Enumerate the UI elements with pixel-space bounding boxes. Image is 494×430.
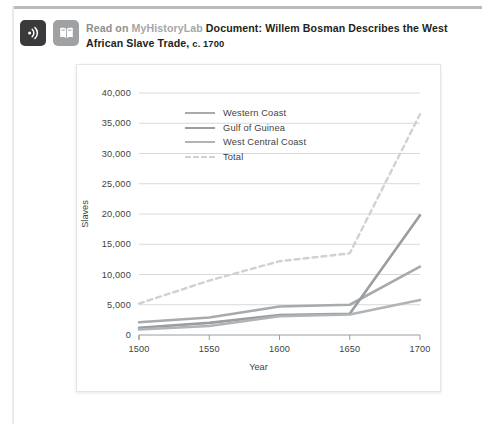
headline-on-label: on <box>115 22 128 34</box>
chart-card: 05,00010,00015,00020,00025,00030,00035,0… <box>76 64 441 392</box>
y-tick-label: 40,000 <box>83 88 131 98</box>
legend-label: Gulf of Guinea <box>223 123 285 133</box>
screenshot-root: Read on MyHistoryLab Document: Willem Bo… <box>0 0 494 430</box>
legend-label: West Central Coast <box>223 137 306 147</box>
y-tick-label: 0 <box>83 330 131 340</box>
x-tick-label: 1500 <box>114 344 164 354</box>
y-tick-label: 20,000 <box>83 209 131 219</box>
x-axis-title: Year <box>77 362 440 372</box>
legend-swatch <box>185 112 215 114</box>
legend-item: West Central Coast <box>185 135 306 150</box>
y-tick-label: 10,000 <box>83 270 131 280</box>
document-header: Read on MyHistoryLab Document: Willem Bo… <box>20 20 472 51</box>
brand-label: MyHistoryLab <box>132 22 203 34</box>
top-divider <box>12 6 482 9</box>
y-tick-label: 30,000 <box>83 149 131 159</box>
legend-label: Western Coast <box>223 108 286 118</box>
document-title-date: c. 1700 <box>192 38 224 49</box>
x-tick-label: 1650 <box>325 344 375 354</box>
audio-listen-icon[interactable] <box>20 20 46 46</box>
y-tick-label: 15,000 <box>83 239 131 249</box>
legend-item: Western Coast <box>185 106 306 121</box>
chart-plot-area: 05,00010,00015,00020,00025,00030,00035,0… <box>77 65 440 391</box>
legend-swatch <box>185 127 215 129</box>
legend-label: Total <box>223 152 243 162</box>
chart-legend: Western CoastGulf of GuineaWest Central … <box>185 106 306 164</box>
read-document-icon[interactable] <box>53 20 79 46</box>
legend-swatch <box>185 156 215 158</box>
document-headline: Read on MyHistoryLab Document: Willem Bo… <box>86 20 472 51</box>
legend-item: Total <box>185 150 306 165</box>
series-line-gulf-of-guinea <box>139 215 420 328</box>
legend-item: Gulf of Guinea <box>185 121 306 136</box>
y-tick-label: 35,000 <box>83 118 131 128</box>
x-tick-label: 1600 <box>255 344 305 354</box>
y-tick-label: 5,000 <box>83 300 131 310</box>
left-divider <box>12 6 14 424</box>
x-tick-label: 1700 <box>395 344 445 354</box>
legend-swatch <box>185 141 215 143</box>
y-tick-label: 25,000 <box>83 179 131 189</box>
x-tick-label: 1550 <box>184 344 234 354</box>
y-axis-title: Slaves <box>80 200 90 228</box>
document-label: Document: <box>206 22 262 34</box>
headline-read-label: Read <box>86 22 112 34</box>
